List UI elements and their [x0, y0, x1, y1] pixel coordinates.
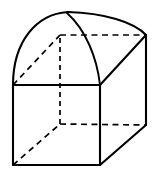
dome-hidden-edges-group: [13, 35, 146, 85]
dome-front-seam-arc: [67, 13, 100, 85]
prism-right-face-group: [100, 35, 146, 165]
figure-canvas: Rectangular prism topped by a quarter-do…: [0, 0, 157, 174]
prism-hidden-edges-group: [13, 35, 146, 165]
top-right-diagonal-edge: [100, 35, 146, 85]
solid-figure-diagram: Rectangular prism topped by a quarter-do…: [0, 0, 157, 174]
bottom-right-diagonal-edge: [100, 125, 146, 165]
dome-right-arc: [68, 12, 146, 35]
dome-cap-group: [13, 12, 146, 85]
bottom-back-horizontal-hidden-edge: [60, 124, 146, 125]
bottom-back-left-diagonal-hidden-edge: [13, 124, 60, 165]
dome-back-diagonal-hidden-edge: [13, 35, 60, 85]
